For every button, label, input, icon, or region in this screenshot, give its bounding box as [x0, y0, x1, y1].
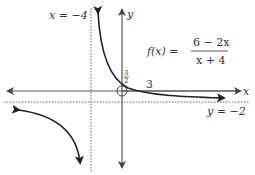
x-intercept-label: 3: [146, 78, 153, 91]
y-intercept-denominator: 2: [124, 77, 128, 85]
function-lhs: f(x) =: [146, 45, 179, 58]
function-numerator: 6 − 2x: [193, 36, 230, 49]
function-denominator: x + 4: [196, 54, 225, 67]
x-axis-label: x: [243, 85, 250, 98]
curve-left-branch: [18, 110, 80, 162]
vertical-asymptote-label: x = −4: [49, 9, 88, 22]
y-intercept-numerator: 3: [124, 69, 128, 77]
y-axis-label: y: [126, 8, 134, 21]
function-graph-diagram: x = −4 y x y = −2 3 2 3 f(x) = 6 − 2x x …: [0, 0, 255, 175]
horizontal-asymptote-label: y = −2: [206, 105, 246, 118]
